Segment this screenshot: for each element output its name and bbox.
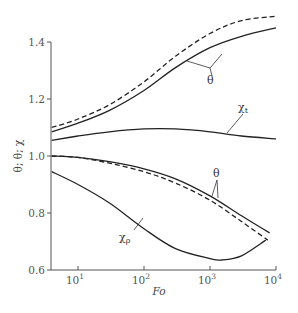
y-tick-label: 1.2	[28, 93, 45, 105]
series-line-2	[52, 129, 276, 141]
series-group	[52, 16, 276, 260]
leader-chi-rho	[134, 218, 143, 230]
y-tick-label: 1.4	[28, 36, 45, 48]
label-theta-lower: θ	[213, 167, 220, 180]
leader-theta-lower-solid	[212, 180, 217, 196]
y-tick-label: 0.6	[28, 264, 45, 276]
y-tick-label: 1.0	[28, 150, 45, 162]
x-axis-label: Fo	[151, 285, 165, 297]
leader-theta-upper-dashed	[187, 61, 210, 68]
y-axis-label: θ; θ; χ	[12, 139, 24, 172]
x-tick-label: 101	[66, 272, 84, 286]
x-tick-label: 102	[132, 272, 150, 286]
series-line-3	[52, 156, 270, 233]
chart: 0.60.81.01.21.4 101102103104 θ χt θ χρ F…	[0, 0, 298, 313]
leader-theta-upper-solid	[210, 54, 222, 68]
leader-chi-t	[227, 114, 243, 133]
x-ticks: 101102103104	[66, 266, 282, 286]
x-tick-label: 104	[264, 272, 282, 286]
series-line-4	[52, 156, 268, 240]
x-tick-label: 103	[198, 272, 216, 286]
label-theta-upper: θ	[207, 74, 214, 87]
label-chi-rho: χρ	[119, 231, 131, 245]
y-ticks: 0.60.81.01.21.4	[28, 36, 51, 276]
y-tick-label: 0.8	[28, 207, 45, 219]
leader-theta-lower-dashed	[217, 180, 218, 198]
label-chi-t: χt	[238, 101, 249, 115]
annotations: θ χt θ χρ	[119, 54, 249, 245]
